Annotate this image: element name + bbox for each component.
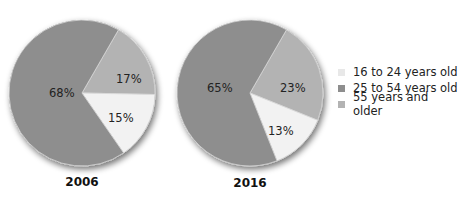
- label-2006-25-54: 68%: [49, 86, 75, 100]
- legend: 16 to 24 years old 25 to 54 years old 55…: [338, 64, 461, 112]
- label-2006-16-24: 15%: [108, 111, 134, 125]
- legend-item-16-24: 16 to 24 years old: [338, 64, 461, 80]
- label-2016-55-plus: 23%: [280, 81, 306, 95]
- legend-item-55-plus: 55 years and older: [338, 96, 461, 112]
- label-2006-55-plus: 17%: [116, 72, 142, 86]
- legend-swatch-25-54: [338, 85, 345, 92]
- legend-label: 55 years and older: [353, 90, 461, 118]
- legend-swatch-55-plus: [338, 101, 345, 108]
- label-2016-16-24: 13%: [268, 124, 294, 138]
- pie-2006: [9, 20, 155, 166]
- year-label-2006: 2006: [52, 175, 112, 189]
- legend-label: 16 to 24 years old: [353, 65, 458, 79]
- legend-swatch-16-24: [338, 69, 345, 76]
- year-label-2016: 2016: [220, 176, 280, 190]
- label-2016-25-54: 65%: [207, 81, 233, 95]
